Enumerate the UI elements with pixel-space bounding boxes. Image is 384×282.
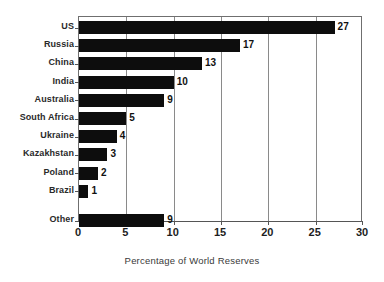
bar (79, 39, 240, 52)
x-tick-label: 5 (122, 226, 128, 238)
x-tick-25 (316, 221, 317, 225)
category-label: China (0, 57, 74, 67)
category-label: Poland (0, 167, 74, 177)
category-label: India (0, 76, 74, 86)
bar-value-label: 13 (205, 56, 216, 69)
category-label: South Africa (0, 112, 74, 122)
bar (79, 185, 88, 198)
x-axis-title: Percentage of World Reserves (0, 255, 384, 266)
bar-value-label: 27 (338, 20, 349, 33)
bar (79, 57, 202, 70)
category-label: Brazil (0, 185, 74, 195)
x-tick-label: 25 (309, 226, 321, 238)
x-tick-15 (221, 221, 222, 225)
bar (79, 21, 335, 34)
bar-value-label: 4 (120, 129, 126, 142)
gridline-25 (316, 17, 317, 221)
x-tick-30 (362, 221, 363, 225)
x-tick-20 (268, 221, 269, 225)
gridline-20 (268, 17, 269, 221)
bar-value-label: 3 (110, 147, 116, 160)
bar-value-label: 5 (129, 111, 135, 124)
category-label: Ukraine (0, 130, 74, 140)
bar (79, 130, 117, 143)
bar (79, 167, 98, 180)
bar-value-label: 9 (167, 93, 173, 106)
bar (79, 112, 126, 125)
category-label: Kazakhstan (0, 148, 74, 158)
bar-value-label: 1 (91, 184, 97, 197)
bar (79, 148, 107, 161)
category-label: Other (0, 214, 74, 224)
x-tick-label: 10 (167, 226, 179, 238)
category-label: Australia (0, 94, 74, 104)
x-tick-label: 30 (356, 226, 368, 238)
bar-value-label: 2 (101, 166, 107, 179)
bar (79, 94, 164, 107)
bar-value-label: 17 (243, 38, 254, 51)
category-label: US (0, 21, 74, 31)
plot-area (78, 16, 362, 222)
x-tick-label: 20 (261, 226, 273, 238)
x-tick-label: 15 (214, 226, 226, 238)
bar (79, 76, 174, 89)
x-tick-label: 0 (75, 226, 81, 238)
category-label: Russia (0, 39, 74, 49)
x-tick-10 (174, 221, 175, 225)
bar-value-label: 10 (177, 75, 188, 88)
bar-value-label: 9 (167, 213, 173, 226)
bar-chart: USRussiaChinaIndiaAustraliaSouth AfricaU… (0, 0, 384, 282)
